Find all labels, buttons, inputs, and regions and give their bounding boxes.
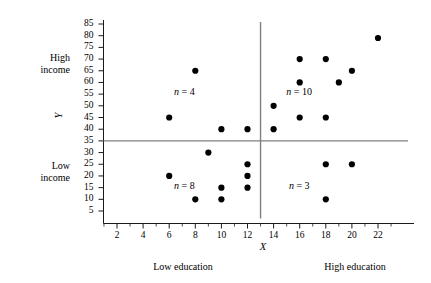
- quadrant-count-lower-left: n = 8: [174, 181, 195, 192]
- x-tick-label: 4: [133, 230, 153, 240]
- x-tick-label: 22: [368, 230, 388, 240]
- y-tick-label: 75: [72, 41, 94, 51]
- data-point: [323, 56, 329, 62]
- y-tick-label: 85: [72, 18, 94, 28]
- y-tick-label: 25: [72, 158, 94, 168]
- y-tick-label: 55: [72, 88, 94, 98]
- y-tick-label: 35: [72, 135, 94, 145]
- data-point: [297, 56, 303, 62]
- data-point: [192, 196, 198, 202]
- low-education-label: Low education: [128, 262, 238, 273]
- x-tick-label: 10: [211, 230, 231, 240]
- y-tick-label: 30: [72, 147, 94, 157]
- x-tick-label: 18: [316, 230, 336, 240]
- y-tick-label: 50: [72, 100, 94, 110]
- data-point: [323, 114, 329, 120]
- y-tick-label: 60: [72, 76, 94, 86]
- data-point: [323, 196, 329, 202]
- x-tick-label: 16: [290, 230, 310, 240]
- x-tick-label: 8: [185, 230, 205, 240]
- data-point: [205, 149, 211, 155]
- data-points-group: [166, 35, 381, 202]
- y-axis-title: Y: [53, 109, 64, 123]
- y-tick-label: 80: [72, 30, 94, 40]
- data-point: [244, 173, 250, 179]
- high-education-label: High education: [300, 262, 410, 273]
- data-point: [244, 185, 250, 191]
- axes-group: [99, 20, 415, 229]
- y-tick-label: 5: [72, 205, 94, 215]
- y-tick-label: 45: [72, 112, 94, 122]
- data-point: [323, 161, 329, 167]
- data-point: [166, 114, 172, 120]
- quadrant-count-upper-right: n = 10: [286, 87, 312, 98]
- y-tick-label: 70: [72, 53, 94, 63]
- data-point: [336, 79, 342, 85]
- x-tick-label: 12: [238, 230, 258, 240]
- reference-lines-group: [104, 22, 409, 219]
- quadrant-count-lower-right: n = 3: [289, 181, 310, 192]
- data-point: [192, 68, 198, 74]
- data-point: [271, 126, 277, 132]
- x-tick-label: 14: [264, 230, 284, 240]
- x-tick-label: 20: [342, 230, 362, 240]
- y-tick-label: 65: [72, 65, 94, 75]
- y-tick-label: 10: [72, 193, 94, 203]
- quadrant-count-upper-left: n = 4: [174, 87, 195, 98]
- plot-canvas: [0, 0, 431, 283]
- scatter-plot-figure: 510152025303540455055606570758085 246810…: [0, 0, 431, 283]
- data-point: [375, 35, 381, 41]
- x-tick-label: 2: [107, 230, 127, 240]
- y-tick-label: 20: [72, 170, 94, 180]
- low-income-label: Lowincome: [14, 160, 70, 184]
- data-point: [218, 185, 224, 191]
- data-point: [218, 126, 224, 132]
- data-point: [349, 161, 355, 167]
- y-tick-label: 40: [72, 123, 94, 133]
- high-income-label: Highincome: [14, 52, 70, 76]
- data-point: [244, 126, 250, 132]
- data-point: [244, 161, 250, 167]
- y-tick-label: 15: [72, 182, 94, 192]
- x-tick-label: 6: [159, 230, 179, 240]
- data-point: [297, 114, 303, 120]
- data-point: [297, 79, 303, 85]
- data-point: [166, 173, 172, 179]
- data-point: [271, 103, 277, 109]
- data-point: [218, 196, 224, 202]
- data-point: [349, 68, 355, 74]
- x-axis-title: X: [256, 241, 270, 252]
